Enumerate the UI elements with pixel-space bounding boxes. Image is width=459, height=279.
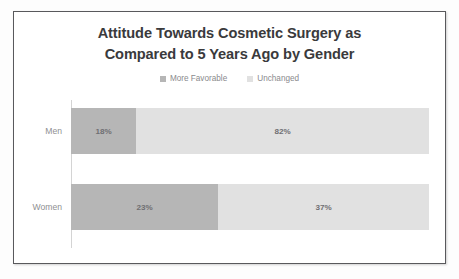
- bar-row-men: Men 18% 82%: [14, 108, 447, 154]
- bar-segment-women-more-favorable[interactable]: 23%: [71, 184, 218, 230]
- bar-value-label-women-unchanged: 37%: [315, 203, 331, 212]
- stacked-bar-men: 18% 82%: [71, 108, 429, 154]
- bar-value-label-women-more-favorable: 23%: [136, 203, 152, 212]
- stacked-bar-women: 23% 37%: [71, 184, 429, 230]
- category-label-women: Women: [14, 202, 71, 212]
- bar-segment-men-more-favorable[interactable]: 18%: [71, 108, 136, 154]
- legend-swatch-more-favorable: [160, 76, 166, 82]
- legend-label-more-favorable: More Favorable: [170, 74, 227, 83]
- bar-value-label-men-unchanged: 82%: [274, 127, 290, 136]
- legend-swatch-unchanged: [247, 76, 253, 82]
- legend-label-unchanged: Unchanged: [257, 74, 299, 83]
- plot-area: Men 18% 82% Women 23% 37%: [14, 94, 447, 254]
- bar-value-label-men-more-favorable: 18%: [95, 127, 111, 136]
- legend-entry-unchanged[interactable]: Unchanged: [247, 74, 299, 83]
- page-background: Attitude Towards Cosmetic Surgery as Com…: [0, 0, 459, 279]
- bar-segment-women-unchanged[interactable]: 37%: [218, 184, 429, 230]
- chart-title: Attitude Towards Cosmetic Surgery as Com…: [14, 23, 445, 65]
- legend-entry-more-favorable[interactable]: More Favorable: [160, 74, 227, 83]
- chart-legend: More Favorable Unchanged: [14, 74, 445, 83]
- chart-frame: Attitude Towards Cosmetic Surgery as Com…: [13, 11, 446, 264]
- bar-row-women: Women 23% 37%: [14, 184, 447, 230]
- bar-segment-men-unchanged[interactable]: 82%: [136, 108, 429, 154]
- category-label-men: Men: [14, 126, 71, 136]
